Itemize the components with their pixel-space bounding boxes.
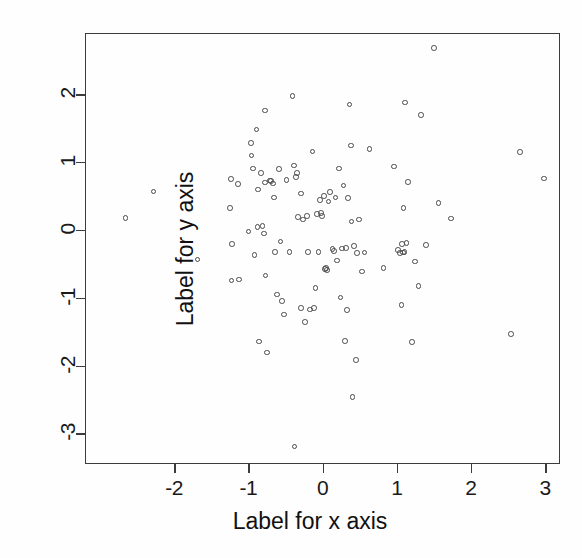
data-point bbox=[304, 213, 310, 219]
data-point bbox=[263, 273, 269, 279]
data-point bbox=[311, 305, 317, 311]
data-point bbox=[333, 195, 339, 201]
data-point bbox=[319, 213, 325, 219]
data-point bbox=[341, 183, 347, 189]
data-point bbox=[262, 108, 268, 114]
data-point bbox=[356, 217, 362, 223]
data-point bbox=[349, 219, 355, 225]
data-point bbox=[347, 102, 353, 108]
data-point bbox=[448, 216, 454, 222]
data-point bbox=[367, 146, 373, 152]
x-axis-title-text: Label for x axis bbox=[195, 508, 388, 534]
data-point bbox=[258, 170, 264, 176]
data-point bbox=[228, 176, 234, 182]
data-point bbox=[249, 153, 255, 159]
y-axis-tick-label: -1 bbox=[56, 277, 80, 317]
data-point bbox=[338, 295, 344, 301]
data-point bbox=[314, 211, 320, 217]
data-point bbox=[302, 319, 308, 325]
y-axis-tick-label: 1 bbox=[56, 141, 80, 181]
data-point bbox=[391, 164, 397, 170]
data-point bbox=[248, 140, 254, 146]
data-point bbox=[353, 357, 359, 363]
data-point bbox=[350, 394, 356, 400]
data-point bbox=[276, 166, 282, 172]
scatter-plot-figure: -2-10123210-1-2-3 Label for x axis Label… bbox=[0, 0, 582, 558]
data-point bbox=[359, 269, 365, 275]
data-point bbox=[305, 249, 311, 255]
data-point bbox=[278, 239, 284, 245]
x-axis-title: Label for x axis bbox=[0, 508, 582, 535]
data-point bbox=[409, 339, 415, 345]
data-point bbox=[405, 179, 411, 185]
data-point bbox=[436, 200, 442, 206]
data-point bbox=[227, 205, 233, 211]
data-point bbox=[290, 93, 296, 99]
data-point bbox=[331, 248, 337, 254]
x-axis-tick-label: 0 bbox=[303, 476, 343, 500]
data-point bbox=[229, 241, 235, 247]
x-axis-tick bbox=[323, 464, 325, 473]
y-axis-title-text: Label for y axis bbox=[172, 172, 198, 327]
data-point bbox=[322, 266, 328, 272]
data-point bbox=[271, 195, 277, 201]
data-point bbox=[327, 189, 333, 195]
data-point bbox=[151, 189, 157, 195]
data-point bbox=[298, 191, 304, 197]
plot-area bbox=[85, 33, 560, 464]
data-point bbox=[345, 195, 351, 201]
data-point bbox=[298, 305, 304, 311]
y-axis-tick-label: -2 bbox=[56, 345, 80, 385]
data-point bbox=[508, 331, 514, 337]
data-point bbox=[235, 181, 241, 187]
data-point bbox=[423, 242, 429, 248]
data-point bbox=[401, 205, 407, 211]
data-point bbox=[294, 170, 300, 176]
data-point bbox=[541, 176, 547, 182]
data-point bbox=[400, 250, 406, 256]
data-point bbox=[284, 177, 290, 183]
x-axis-tick bbox=[397, 464, 399, 473]
x-axis-tick-label: 3 bbox=[525, 476, 565, 500]
data-point bbox=[402, 100, 408, 106]
data-point bbox=[348, 143, 354, 149]
data-point bbox=[281, 312, 287, 318]
x-axis-tick-label: 2 bbox=[451, 476, 491, 500]
data-point bbox=[342, 338, 348, 344]
data-point bbox=[326, 199, 332, 205]
data-point bbox=[292, 444, 298, 450]
x-axis-tick bbox=[471, 464, 473, 473]
data-point bbox=[291, 163, 297, 169]
data-point bbox=[313, 285, 319, 291]
y-axis-title: Label for y axis bbox=[171, 0, 199, 498]
data-point bbox=[321, 193, 327, 199]
data-point bbox=[381, 265, 387, 271]
data-point bbox=[351, 243, 357, 249]
data-point bbox=[260, 223, 266, 229]
x-axis-tick bbox=[545, 464, 547, 473]
data-point bbox=[287, 249, 293, 255]
data-point bbox=[362, 250, 368, 256]
data-point bbox=[261, 231, 267, 237]
data-point bbox=[416, 283, 422, 289]
data-point bbox=[412, 259, 418, 265]
data-point bbox=[254, 127, 260, 133]
x-axis-tick-label: -1 bbox=[228, 476, 268, 500]
y-axis-tick-label: -3 bbox=[56, 412, 80, 452]
data-point bbox=[310, 149, 316, 155]
data-point bbox=[229, 278, 235, 284]
y-axis-tick-label: 0 bbox=[56, 209, 80, 249]
data-point bbox=[246, 229, 252, 235]
data-point bbox=[250, 166, 256, 172]
data-point bbox=[316, 249, 322, 255]
data-point bbox=[344, 307, 350, 313]
data-point bbox=[343, 245, 349, 251]
data-points-layer bbox=[86, 34, 559, 463]
data-point bbox=[517, 149, 523, 155]
data-point bbox=[431, 45, 437, 51]
data-point bbox=[279, 298, 285, 304]
data-point bbox=[264, 350, 270, 356]
data-point bbox=[270, 181, 276, 187]
x-axis-tick bbox=[248, 464, 250, 473]
data-point bbox=[336, 166, 342, 172]
